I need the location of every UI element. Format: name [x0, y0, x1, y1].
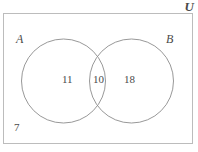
set-b-label: B: [166, 33, 173, 45]
venn-diagram-figure: U A B 11 10 18 7: [0, 0, 198, 152]
count-a-only: 11: [62, 74, 73, 85]
count-b-only: 18: [124, 74, 135, 85]
count-outside-sets: 7: [14, 122, 20, 133]
set-a-label: A: [16, 33, 23, 45]
count-intersection: 10: [93, 74, 104, 85]
universe-label: U: [184, 0, 194, 13]
